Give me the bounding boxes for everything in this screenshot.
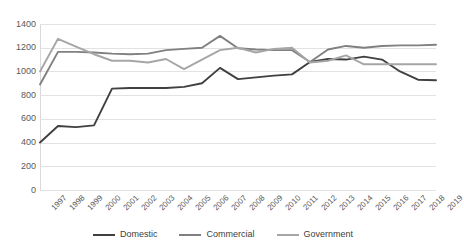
x-tick-label-2014: 2014 [356,194,374,212]
x-tick-label-2015: 2015 [374,194,392,212]
legend-item-domestic[interactable]: Domestic [93,230,158,239]
chart-legend: DomesticCommercialGovernment [0,230,446,239]
x-tick-label-2006: 2006 [212,194,230,212]
y-tick-label-400: 400 [0,138,36,147]
series-lines [40,24,436,190]
series-line-domestic [40,57,436,143]
x-tick-label-2010: 2010 [284,194,302,212]
y-tick-label-0: 0 [0,186,36,195]
x-tick-label-2004: 2004 [176,194,194,212]
y-tick-label-600: 600 [0,114,36,123]
x-tick-label-1999: 1999 [86,194,104,212]
x-tick-label-2009: 2009 [266,194,284,212]
x-tick-label-2007: 2007 [230,194,248,212]
series-line-government [40,39,436,72]
x-tick-label-2002: 2002 [140,194,158,212]
legend-swatch-icon [179,234,201,236]
legend-label: Commercial [206,230,254,239]
legend-label: Government [304,230,354,239]
x-tick-label-2000: 2000 [104,194,122,212]
legend-label: Domestic [120,230,158,239]
x-tick-label-2001: 2001 [122,194,140,212]
y-tick-label-1000: 1000 [0,67,36,76]
y-tick-label-200: 200 [0,162,36,171]
legend-swatch-icon [93,234,115,236]
y-tick-label-800: 800 [0,91,36,100]
x-tick-label-2012: 2012 [320,194,338,212]
x-tick-label-2018: 2018 [428,194,446,212]
x-tick-label-2005: 2005 [194,194,212,212]
x-tick-label-2008: 2008 [248,194,266,212]
series-line-commercial [40,36,436,85]
y-tick-label-1400: 1400 [0,20,36,29]
legend-item-commercial[interactable]: Commercial [179,230,254,239]
legend-swatch-icon [277,234,299,236]
y-tick-label-1200: 1200 [0,43,36,52]
x-tick-label-2016: 2016 [392,194,410,212]
x-tick-label-1997: 1997 [50,194,68,212]
gridline-0 [40,190,436,191]
x-tick-label-2011: 2011 [302,194,320,212]
x-tick-label-2003: 2003 [158,194,176,212]
legend-item-government[interactable]: Government [277,230,354,239]
x-tick-label-2019: 2019 [446,194,464,212]
plot-area [40,24,436,190]
x-tick-label-1998: 1998 [68,194,86,212]
x-tick-label-2017: 2017 [410,194,428,212]
x-tick-label-2013: 2013 [338,194,356,212]
